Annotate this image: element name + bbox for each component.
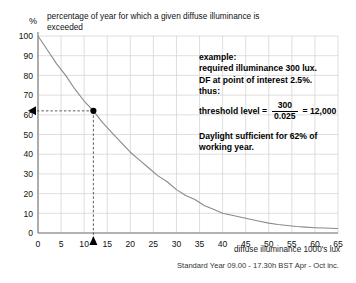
x-axis-tick-label: 20 [126, 239, 136, 249]
formula-result: = 12,000 [303, 106, 337, 116]
guide-arrow-up [89, 236, 97, 245]
x-axis-tick-label: 30 [172, 239, 182, 249]
figure-caption: Standard Year 09.00 - 17.30h BST Apr - O… [177, 261, 339, 270]
example-heading: example: [199, 52, 317, 63]
example-line-2: DF at point of interest 2.5%. [199, 75, 317, 86]
conclusion-line-2: working year. [199, 142, 317, 153]
y-axis-tick-label: 40 [23, 149, 33, 159]
x-axis-tick-label: 35 [195, 239, 205, 249]
x-axis-tick-label: 40 [218, 239, 228, 249]
y-axis-tick-label: 0 [28, 228, 33, 238]
example-point-marker [90, 108, 96, 114]
formula-label: threshold level = [199, 106, 267, 116]
formula-fraction: 300 0.025 [272, 101, 298, 121]
y-axis-tick-label: 90 [23, 51, 33, 61]
x-axis-tick-label: 15 [102, 239, 112, 249]
threshold-level-formula: threshold level = 300 0.025 = 12,000 [199, 101, 336, 121]
formula-numerator: 300 [276, 101, 294, 111]
chart-figure: % percentage of year for which a given d… [0, 0, 356, 283]
x-axis-label: diffuse illuminance 1000's lux [234, 245, 340, 254]
example-line-1: required illuminance 300 lux. [199, 63, 317, 74]
x-axis-tick-label: 25 [149, 239, 159, 249]
y-axis-tick-label: 80 [23, 71, 33, 81]
y-axis-tick-label: 50 [23, 130, 33, 140]
x-axis-tick-label: 0 [36, 239, 41, 249]
formula-denominator: 0.025 [272, 111, 298, 122]
y-axis-tick-label: 10 [23, 209, 33, 219]
y-axis-tick-label: 100 [19, 31, 34, 41]
x-axis-tick-label: 10 [79, 239, 89, 249]
y-axis-tick-label: 20 [23, 189, 33, 199]
conclusion-note: Daylight sufficient for 62% of working y… [199, 131, 317, 154]
y-axis-tick-label: 70 [23, 90, 33, 100]
example-line-3: thus: [199, 86, 317, 97]
y-axis-tick-label: 30 [23, 169, 33, 179]
conclusion-line-1: Daylight sufficient for 62% of [199, 131, 317, 142]
worked-example-note: example: required illuminance 300 lux. D… [199, 52, 317, 98]
x-axis-tick-label: 5 [59, 239, 64, 249]
